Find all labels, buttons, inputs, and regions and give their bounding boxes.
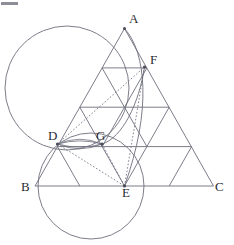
label-point-c: C [215, 179, 224, 194]
label-point-e: E [122, 185, 130, 200]
geometry-figure: A F D G B E C [0, 0, 234, 245]
circles-group [5, 26, 144, 239]
label-point-b: B [21, 179, 30, 194]
label-point-a: A [129, 11, 139, 26]
point-dot-a [123, 27, 126, 30]
label-point-f: F [150, 52, 157, 67]
label-point-g: G [96, 128, 105, 143]
point-dot-f [143, 65, 146, 68]
geometry-canvas: A F D G B E C [0, 0, 234, 245]
triangle-grid-group [35, 29, 214, 187]
corner-mark [1, 2, 18, 5]
grid-diagonal-right-3 [169, 147, 191, 186]
label-point-d: D [48, 128, 57, 143]
grid-diagonal-left-3 [57, 147, 79, 186]
point-labels-group: A F D G B E C [21, 11, 224, 200]
dotted-construction-group [58, 67, 145, 186]
